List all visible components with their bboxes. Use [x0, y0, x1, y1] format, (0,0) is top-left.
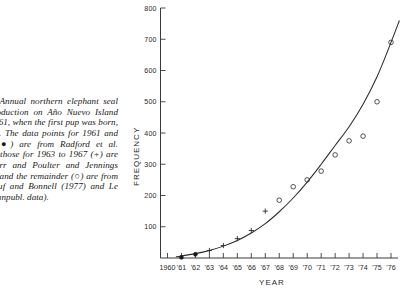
x-axis-tick-label: '70 [302, 264, 312, 272]
x-axis-tick-label: '62 [191, 264, 201, 272]
data-point-plus [207, 248, 212, 253]
x-axis-tick-label: '66 [247, 264, 257, 272]
x-axis-tick-label: '74 [358, 264, 368, 272]
figure-caption: URE4. Annual northern elephant seal pup … [0, 96, 118, 203]
data-point-open-circle [319, 169, 324, 174]
y-axis-tick-labels: 100200300400500600700800 [144, 5, 156, 232]
x-axis-tick-marks [167, 253, 391, 258]
x-axis-tick-label: '75 [372, 264, 382, 272]
data-point-open-circle [347, 139, 352, 144]
y-axis-tick-label: 200 [144, 192, 156, 200]
data-point-plus [263, 209, 268, 214]
x-axis-tick-label: '71 [316, 264, 326, 272]
x-axis-tick-label: '68 [274, 264, 284, 272]
data-point-open-circle [375, 99, 380, 104]
y-axis-tick-marks [161, 8, 166, 227]
x-axis-tick-label: '64 [219, 264, 229, 272]
data-point-open-circle [361, 134, 366, 139]
x-axis-tick-label: '72 [330, 264, 340, 272]
data-point-filled-circle [180, 255, 184, 259]
x-axis-title: YEAR [259, 278, 285, 287]
data-point-filled-circle [194, 252, 198, 256]
y-axis-tick-label: 600 [144, 67, 156, 75]
y-axis-tick-label: 700 [144, 36, 156, 44]
y-axis-tick-label: 100 [144, 223, 156, 231]
series-plus-markers [207, 209, 268, 254]
x-axis-tick-label: '61 [177, 264, 187, 272]
y-axis-tick-label: 400 [144, 130, 156, 138]
x-axis-tick-label: '76 [386, 264, 396, 272]
y-axis-tick-label: 800 [144, 5, 156, 13]
x-axis-tick-label: '73 [344, 264, 354, 272]
y-axis-tick-label: 500 [144, 98, 156, 106]
x-axis-tick-label: '63 [205, 264, 215, 272]
x-axis-tick-label: '65 [233, 264, 243, 272]
figure-plot-area: 100200300400500600700800 1960'61'62'63'6… [130, 0, 400, 290]
x-axis-tick-label: '69 [288, 264, 298, 272]
data-point-open-circle [277, 198, 282, 203]
y-axis-tick-label: 300 [144, 161, 156, 169]
figure-caption-text: Annual northern elephant seal pup produc… [0, 96, 118, 202]
data-point-plus [235, 236, 240, 241]
data-point-open-circle [291, 184, 296, 189]
data-point-open-circle [333, 153, 338, 158]
x-axis-tick-label: 1960 [159, 264, 175, 272]
scatter-chart: 100200300400500600700800 1960'61'62'63'6… [130, 0, 400, 290]
y-axis-title: FREQUENCY [132, 127, 141, 186]
x-axis-tick-label: '67 [261, 264, 271, 272]
x-axis-tick-labels: 1960'61'62'63'64'65'66'67'68'69'70'71'72… [159, 264, 395, 272]
exponential-fit-curve [176, 21, 400, 257]
series-open-circle-markers [277, 40, 393, 202]
